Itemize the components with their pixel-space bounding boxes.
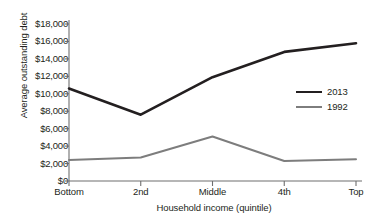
legend-item-1992: 1992 xyxy=(296,99,348,114)
x-axis-tick-label: Middle xyxy=(178,186,248,197)
legend-label-1992: 1992 xyxy=(327,101,348,112)
x-axis-title: Household income (quintile) xyxy=(69,202,359,213)
legend-line-swatch-1992 xyxy=(296,106,322,108)
x-axis-tick-label: Top xyxy=(321,186,368,197)
legend-label-2013: 2013 xyxy=(327,86,348,97)
x-axis-tick-label: 2nd xyxy=(106,186,176,197)
legend-item-2013: 2013 xyxy=(296,84,348,99)
chart-legend: 2013 1992 xyxy=(296,84,348,114)
legend-line-swatch-2013 xyxy=(296,91,322,93)
chart-container: Average outstanding debt $0$2,000$4,000$… xyxy=(0,0,368,220)
x-axis-tick-label: Bottom xyxy=(34,186,104,197)
x-axis-tick-label: 4th xyxy=(249,186,319,197)
